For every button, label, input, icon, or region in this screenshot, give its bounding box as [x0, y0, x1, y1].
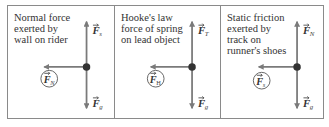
object-dot — [293, 63, 300, 70]
circled-force-label: F H — [147, 70, 164, 87]
svg-text:g: g — [99, 103, 103, 110]
svg-text:N: N — [309, 30, 315, 37]
down-force-label: F g — [197, 96, 209, 110]
svg-text:T: T — [205, 30, 210, 37]
object-dot — [188, 63, 195, 70]
free-body-diagram: F N F g F s — [221, 6, 324, 118]
svg-text:s: s — [99, 30, 102, 37]
svg-text:g: g — [310, 103, 314, 110]
panel-normal-force: Normal force exerted by wall on rider F … — [8, 6, 114, 118]
panel-static-friction: Static friction exerted by track on runn… — [220, 6, 324, 118]
up-force-label: F T — [197, 24, 210, 38]
panel-hookes-law-force: Hooke's law force of spring on lead obje… — [114, 6, 220, 118]
svg-text:N: N — [49, 79, 55, 86]
svg-text:g: g — [205, 103, 209, 110]
down-force-label: F g — [302, 96, 314, 110]
free-body-diagram: F T F g F H — [115, 6, 220, 118]
circled-force-label: F s — [253, 72, 270, 89]
svg-text:s: s — [263, 81, 266, 88]
up-force-label: F s — [91, 24, 102, 38]
up-force-label: F N — [302, 24, 315, 38]
object-dot — [83, 63, 90, 70]
down-force-label: F g — [91, 96, 103, 110]
free-body-diagrams-figure: Normal force exerted by wall on rider F … — [7, 5, 324, 119]
svg-text:H: H — [156, 79, 161, 86]
circled-force-label: F N — [41, 70, 58, 87]
free-body-diagram: F s F g F N — [8, 6, 114, 118]
